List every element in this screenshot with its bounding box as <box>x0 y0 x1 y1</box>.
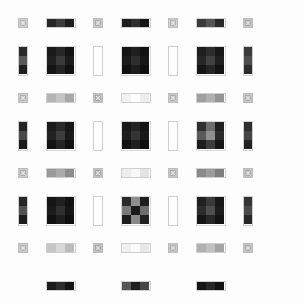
blk-segment <box>122 56 131 65</box>
tile-segment <box>169 94 177 102</box>
hbar-segment <box>122 169 131 177</box>
vbar-segment <box>169 206 177 215</box>
lattice-block <box>196 196 226 226</box>
blk-segment <box>131 140 140 149</box>
vbar-segment <box>19 122 27 131</box>
blk-segment <box>47 215 56 224</box>
blk-segment <box>47 197 56 206</box>
blk-segment <box>206 197 215 206</box>
blk-segment <box>197 140 206 149</box>
blk-segment <box>215 47 224 56</box>
hbar-segment <box>206 19 215 27</box>
blk-segment <box>56 131 65 140</box>
tile-segment <box>244 244 252 252</box>
blk-segment <box>122 140 131 149</box>
blk-segment <box>197 47 206 56</box>
blk-segment <box>215 206 224 215</box>
lattice-hbar <box>121 18 151 28</box>
hbar-segment <box>65 244 74 252</box>
blk-segment <box>140 131 149 140</box>
blk-segment <box>122 122 131 131</box>
vbar-segment <box>19 131 27 140</box>
blk-segment <box>197 206 206 215</box>
blk-segment <box>206 65 215 74</box>
hbar-segment <box>65 19 74 27</box>
blk-segment <box>131 215 140 224</box>
blk-segment <box>206 47 215 56</box>
blk-segment <box>131 122 140 131</box>
vbar-segment <box>244 215 252 224</box>
vbar-segment <box>169 131 177 140</box>
vbar-segment <box>169 56 177 65</box>
hbar-segment <box>206 169 215 177</box>
blk-segment <box>56 140 65 149</box>
lattice-tile <box>168 18 178 28</box>
lattice-tile <box>18 168 28 178</box>
vbar-segment <box>19 140 27 149</box>
blk-segment <box>122 47 131 56</box>
lattice-vbar <box>18 121 28 151</box>
blk-segment <box>56 215 65 224</box>
blk-segment <box>206 56 215 65</box>
lattice-hbar <box>46 93 76 103</box>
hbar-segment <box>197 19 206 27</box>
blk-segment <box>131 197 140 206</box>
lattice-vbar <box>168 196 178 226</box>
blk-segment <box>47 47 56 56</box>
vbar-segment <box>94 140 102 149</box>
lattice-vbar <box>18 46 28 76</box>
lattice-block <box>196 46 226 76</box>
blk-segment <box>47 65 56 74</box>
vbar-segment <box>244 56 252 65</box>
hbar-segment <box>215 19 224 27</box>
lattice-hbar <box>46 18 76 28</box>
hbar-segment <box>56 282 65 290</box>
tile-segment <box>94 169 102 177</box>
hbar-segment <box>140 19 149 27</box>
blk-segment <box>215 56 224 65</box>
vbar-segment <box>169 197 177 206</box>
blk-segment <box>65 131 74 140</box>
blk-segment <box>215 65 224 74</box>
hbar-segment <box>65 282 74 290</box>
hbar-segment <box>47 282 56 290</box>
lattice-block <box>46 46 76 76</box>
blk-segment <box>131 47 140 56</box>
blk-segment <box>206 215 215 224</box>
hbar-segment <box>131 169 140 177</box>
blk-segment <box>131 206 140 215</box>
lattice-tile <box>93 93 103 103</box>
blk-segment <box>47 131 56 140</box>
lattice-hbar <box>46 243 76 253</box>
lattice-hbar <box>46 281 76 291</box>
lattice-tile <box>93 18 103 28</box>
blk-segment <box>206 131 215 140</box>
blk-segment <box>56 122 65 131</box>
hbar-segment <box>56 169 65 177</box>
hbar-segment <box>131 282 140 290</box>
blk-segment <box>197 56 206 65</box>
tile-segment <box>19 94 27 102</box>
hbar-segment <box>140 94 149 102</box>
blk-segment <box>215 215 224 224</box>
hbar-segment <box>206 282 215 290</box>
lattice-tile <box>18 243 28 253</box>
blk-segment <box>65 206 74 215</box>
blk-segment <box>206 206 215 215</box>
hbar-segment <box>206 244 215 252</box>
blk-segment <box>122 215 131 224</box>
tile-segment <box>94 244 102 252</box>
blk-segment <box>65 56 74 65</box>
blk-segment <box>122 206 131 215</box>
lattice-vbar <box>18 196 28 226</box>
vbar-segment <box>19 197 27 206</box>
blk-segment <box>65 122 74 131</box>
blk-segment <box>197 122 206 131</box>
hbar-segment <box>197 282 206 290</box>
hbar-segment <box>65 94 74 102</box>
hbar-segment <box>122 94 131 102</box>
vbar-segment <box>94 215 102 224</box>
hbar-segment <box>65 169 74 177</box>
hbar-segment <box>197 244 206 252</box>
vbar-segment <box>19 56 27 65</box>
